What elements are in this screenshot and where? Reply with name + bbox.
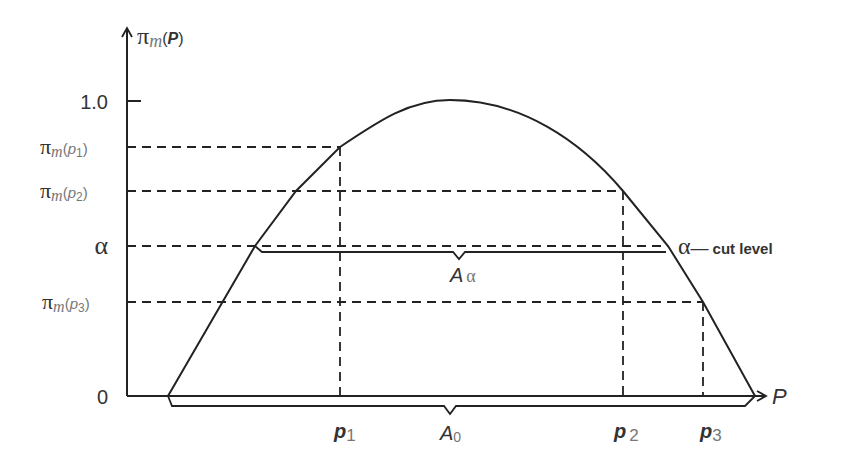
brace-a-alpha — [255, 246, 666, 259]
brace-a0 — [168, 396, 755, 414]
possibility-diagram: πm(P) 1.0 0 α πm(p1) πm(p2) πm(p3) P p1 … — [0, 0, 852, 464]
tick-label-pi-p3: πm(p3) — [42, 289, 90, 315]
tick-label-zero: 0 — [97, 386, 108, 408]
alpha-cut-label: α—cut level — [678, 233, 773, 259]
y-axis-label: πm(P) — [137, 23, 183, 51]
tick-label-alpha: α — [94, 231, 108, 260]
x-axis-label: P — [772, 384, 787, 409]
tick-label-pi-p2: πm(p2) — [40, 178, 88, 204]
x-label-p2: p2 — [613, 420, 639, 445]
tick-label-pi-p1: πm(p1) — [40, 134, 88, 160]
a0-label: A0 — [439, 422, 461, 445]
a-alpha-label: Aα — [449, 264, 476, 286]
x-label-p3: p3 — [699, 420, 722, 445]
tick-label-one: 1.0 — [80, 91, 108, 113]
x-label-p1: p1 — [333, 420, 356, 445]
